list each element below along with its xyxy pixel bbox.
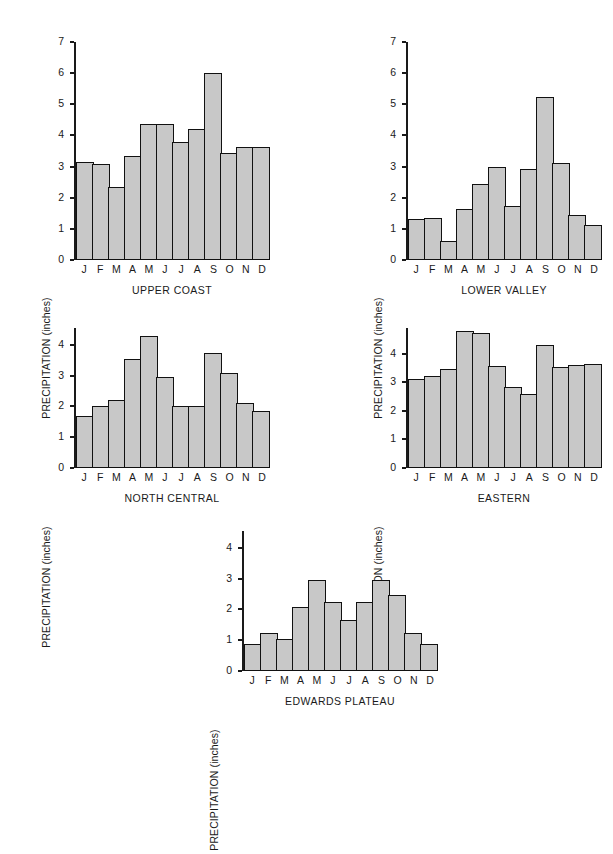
bar [204,73,222,260]
x-axis-tick-label: M [309,674,325,686]
bar [568,365,586,468]
bar [456,331,474,468]
bar [252,147,270,260]
x-axis-tick-label: O [222,471,238,483]
y-axis-tick [70,103,74,105]
bar [188,406,206,468]
y-axis-tick-label: 2 [42,192,64,202]
bar [76,162,94,260]
bar [536,97,554,260]
x-axis-tick-label: O [222,263,238,275]
bar [408,379,426,468]
bar [536,345,554,468]
y-axis-tick-label: 2 [374,192,396,202]
y-axis-tick [70,467,74,469]
y-axis-tick [402,134,406,136]
x-axis-tick-label: A [521,471,537,483]
bar-series [408,328,602,468]
y-axis-tick-label: 0 [374,462,396,472]
y-axis-tick-label: 7 [42,36,64,46]
y-axis-tick [402,353,406,355]
y-axis-tick-label: 0 [374,254,396,264]
bar [156,377,174,468]
x-axis-tick-label: N [238,263,254,275]
bar [244,644,262,671]
chart-panel-edwards-plateau: PRECIPITATION (inches) 01234JFMAMJJASOND… [196,525,446,715]
bar [520,169,538,260]
x-axis-tick-label: F [260,674,276,686]
chart-panel-upper-coast: PRECIPITATION (inches) 01234567JFMAMJJAS… [28,36,278,306]
y-axis-title: PRECIPITATION (inches) [208,690,222,854]
x-axis-tick-label: F [92,263,108,275]
y-axis-tick [238,670,242,672]
bar [552,367,570,468]
x-axis-labels: JFMAMJJASOND [76,263,270,275]
y-axis-tick-label: 6 [42,67,64,77]
x-axis-tick-label: M [473,263,489,275]
y-axis-tick [402,438,406,440]
x-axis-tick-label: D [586,471,602,483]
x-axis-tick-label: A [189,471,205,483]
bar [356,602,374,671]
x-axis-tick-label: S [537,471,553,483]
bar [488,167,506,260]
bar [568,215,586,260]
y-axis-tick [402,103,406,105]
y-axis-tick [70,197,74,199]
y-axis-tick-label: 0 [42,254,64,264]
bar [504,206,522,261]
y-axis-tick [70,436,74,438]
x-axis-tick-label: M [108,263,124,275]
x-axis-tick-label: M [141,471,157,483]
x-axis-tick-label: A [457,471,473,483]
y-axis-tick [70,134,74,136]
y-axis-tick-label: 2 [42,400,64,410]
bar [140,336,158,468]
x-axis-tick-label: A [293,674,309,686]
x-axis-tick-label: M [440,471,456,483]
x-axis-tick-label: F [424,471,440,483]
bar [92,406,110,468]
x-axis-tick-label: O [390,674,406,686]
y-axis-tick-label: 1 [42,223,64,233]
bar [236,403,254,468]
chart-title: NORTH CENTRAL [74,492,270,504]
x-axis-tick-label: F [92,471,108,483]
x-axis-tick-label: J [408,471,424,483]
x-axis-tick-label: A [125,471,141,483]
bar [92,164,110,260]
x-axis-tick-label: S [205,471,221,483]
y-axis-tick [70,166,74,168]
bar [108,187,126,260]
y-axis-tick-label: 4 [210,542,232,552]
x-axis-tick-label: J [505,263,521,275]
bar-series [244,531,438,671]
bar [424,218,442,260]
y-axis-tick [402,72,406,74]
y-axis-tick-label: 4 [42,129,64,139]
plot-area: 01234567JFMAMJJASONDUPPER COAST [74,42,270,260]
x-axis-tick-label: J [505,471,521,483]
bar [504,387,522,468]
plot-area: 01234JFMAMJJASONDNORTH CENTRAL [74,328,270,468]
bar [584,364,602,468]
y-axis-tick [70,375,74,377]
bar [488,366,506,468]
bar [172,142,190,260]
bar [424,376,442,468]
bar [140,124,158,260]
y-axis-tick [70,259,74,261]
chart-title: EASTERN [406,492,602,504]
bar [220,373,238,468]
bar [404,633,422,671]
bar [408,219,426,260]
chart-panel-eastern: PRECIPITATION (inches) 01234JFMAMJJASOND… [360,322,610,512]
y-axis-tick [70,405,74,407]
y-axis-tick [402,259,406,261]
x-axis-tick-label: J [157,471,173,483]
bar [456,209,474,260]
y-axis-tick [402,197,406,199]
y-axis-tick [402,381,406,383]
x-axis-tick-label: F [424,263,440,275]
y-axis-tick-label: 1 [374,223,396,233]
